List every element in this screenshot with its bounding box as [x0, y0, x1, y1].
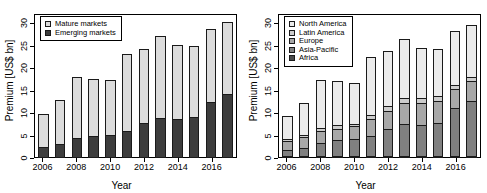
bar-segment [139, 123, 149, 158]
bar-segment [383, 129, 393, 157]
legend-swatch-icon [45, 30, 51, 36]
bar-segment [38, 147, 48, 158]
legend-swatch-icon [289, 47, 295, 53]
bar-slot [413, 15, 430, 157]
stacked-bar[interactable] [139, 47, 149, 157]
y-tick-label: 5 [261, 131, 274, 141]
y-tick-label-text: 0 [19, 152, 29, 165]
y-tick-label: 25 [17, 41, 30, 51]
bar-segment [349, 83, 359, 124]
y-tick-label: 30 [17, 18, 30, 28]
stacked-bar[interactable] [349, 78, 359, 157]
y-axis-title-right: Premium [US$ bn] [246, 0, 262, 160]
x-tick-label: 2016 [202, 162, 222, 172]
y-tick-label: 20 [261, 63, 274, 73]
y-tick-label: 0 [261, 153, 274, 163]
bar-slot [169, 15, 186, 157]
x-tick-label: 2014 [412, 162, 432, 172]
y-tick-label: 10 [261, 108, 274, 118]
stacked-bar[interactable] [88, 77, 98, 157]
y-tick-label: 5 [17, 131, 30, 141]
bar-segment [332, 81, 342, 126]
stacked-bar[interactable] [399, 34, 409, 157]
stacked-bar[interactable] [299, 98, 309, 157]
stacked-bar[interactable] [316, 75, 326, 157]
y-tick-label: 0 [17, 153, 30, 163]
stacked-bar[interactable] [433, 44, 443, 157]
y-tick-label-text: 20 [19, 62, 29, 75]
bar-segment [466, 25, 476, 79]
y-tick-label: 25 [261, 41, 274, 51]
y-axis-title-left: Premium [US$ bn] [2, 0, 18, 160]
stacked-bar[interactable] [416, 43, 426, 157]
bar-segment [416, 103, 426, 126]
y-tick-label-text: 30 [19, 17, 29, 30]
stacked-bar[interactable] [383, 47, 393, 157]
y-tick-label-text: 20 [263, 62, 273, 75]
x-tick-label: 2012 [134, 162, 154, 172]
bar-segment [299, 103, 309, 136]
stacked-bar[interactable] [282, 112, 292, 157]
bar-segment [433, 123, 443, 157]
legend-swatch-icon [289, 55, 295, 61]
bar-segment [88, 79, 98, 138]
x-tick-label: 2016 [446, 162, 466, 172]
bar-segment [316, 80, 326, 129]
bar-segment [88, 136, 98, 158]
bar-segment [122, 54, 132, 132]
panel-right: Premium [US$ bn] 051015202530 2006200820… [244, 0, 487, 193]
stacked-bar[interactable] [366, 52, 376, 157]
y-axis-tick-labels-right: 051015202530 [261, 0, 274, 160]
x-tick-label: 2008 [66, 162, 86, 172]
bar-segment [450, 31, 460, 86]
bar-slot [396, 15, 413, 157]
y-tick-label-text: 10 [19, 107, 29, 120]
stacked-bar[interactable] [206, 27, 216, 157]
stacked-bar[interactable] [466, 20, 476, 157]
bar-segment [189, 117, 199, 158]
bar-segment [383, 111, 393, 131]
x-tick-label: 2006 [276, 162, 296, 172]
stacked-bar[interactable] [332, 77, 342, 157]
x-tick-label: 2008 [310, 162, 330, 172]
stacked-bar[interactable] [450, 27, 460, 157]
stacked-bar[interactable] [189, 44, 199, 157]
bar-segment [316, 143, 326, 157]
y-tick-label: 15 [261, 86, 274, 96]
y-tick-label-text: 15 [263, 84, 273, 97]
stacked-bar[interactable] [55, 98, 65, 157]
bar-segment [416, 125, 426, 157]
y-tick-label-text: 15 [19, 84, 29, 97]
y-tick-label: 10 [17, 108, 30, 118]
bar-segment [450, 89, 460, 109]
y-tick-label-text: 25 [19, 39, 29, 52]
x-tick-label: 2012 [378, 162, 398, 172]
bar-slot [219, 15, 236, 157]
bar-segment [55, 144, 65, 158]
bar-segment [466, 81, 476, 102]
bar-segment [55, 100, 65, 145]
bar-segment [349, 139, 359, 157]
bar-slot [186, 15, 203, 157]
stacked-bar[interactable] [172, 43, 182, 157]
x-axis-tick-labels-left: 200620082010201220142016 [34, 162, 237, 174]
bar-segment [222, 22, 232, 95]
legend-label: Africa [299, 54, 318, 63]
bar-segment [155, 36, 165, 119]
legend-label: Emerging markets [55, 29, 116, 38]
bar-segment [466, 101, 476, 157]
stacked-bar[interactable] [122, 52, 132, 157]
bar-segment [189, 46, 199, 118]
bar-segment [105, 80, 115, 135]
stacked-bar[interactable] [72, 75, 82, 157]
y-axis-tick-labels-left: 051015202530 [17, 0, 30, 160]
bar-segment [450, 108, 460, 157]
stacked-bar[interactable] [222, 20, 232, 157]
bar-segment [139, 49, 149, 125]
bar-segment [72, 77, 82, 140]
x-tick-label: 2014 [168, 162, 188, 172]
bar-segment [72, 138, 82, 158]
stacked-bar[interactable] [105, 78, 115, 157]
stacked-bar[interactable] [155, 34, 165, 157]
stacked-bar[interactable] [38, 112, 48, 157]
